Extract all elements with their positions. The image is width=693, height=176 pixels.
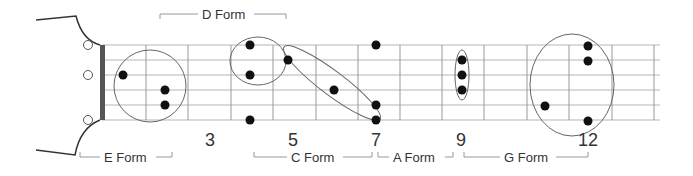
note-dot [372, 41, 381, 50]
c-form-label: C Form [291, 151, 334, 164]
note-dot [458, 56, 467, 65]
note-dot [458, 71, 467, 80]
e-form-label: E Form [104, 151, 147, 164]
note-dot [246, 41, 255, 50]
fret-number-9: 9 [456, 131, 466, 149]
d-form-outline [230, 37, 286, 85]
open-string-marker [84, 116, 93, 125]
note-dot [119, 71, 128, 80]
note-dot [284, 56, 293, 65]
open-string-marker [84, 71, 93, 80]
g-form-outline [530, 34, 614, 136]
note-dot [330, 86, 339, 95]
open-string-marker [84, 41, 93, 50]
note-dot [584, 57, 593, 66]
note-dot [161, 86, 170, 95]
fret-number-7: 7 [371, 131, 381, 149]
note-dot [541, 102, 550, 111]
note-dot [372, 116, 381, 125]
note-dot [246, 116, 255, 125]
note-dot [372, 101, 381, 110]
g-form-label: G Form [504, 151, 548, 164]
note-dot [584, 117, 593, 126]
fret-number-5: 5 [288, 131, 298, 149]
note-dot [458, 86, 467, 95]
a-form-label: A Form [393, 151, 435, 164]
e-form-outline [114, 50, 186, 122]
fret-number-3: 3 [205, 131, 215, 149]
d-form-label: D Form [202, 8, 245, 21]
nut [100, 45, 105, 120]
fret-number-12: 12 [578, 131, 598, 149]
headstock-outline-bottom [36, 120, 100, 155]
note-dot [246, 71, 255, 80]
note-dot [161, 101, 170, 110]
note-dot [584, 42, 593, 51]
c-form-outline [277, 37, 387, 128]
